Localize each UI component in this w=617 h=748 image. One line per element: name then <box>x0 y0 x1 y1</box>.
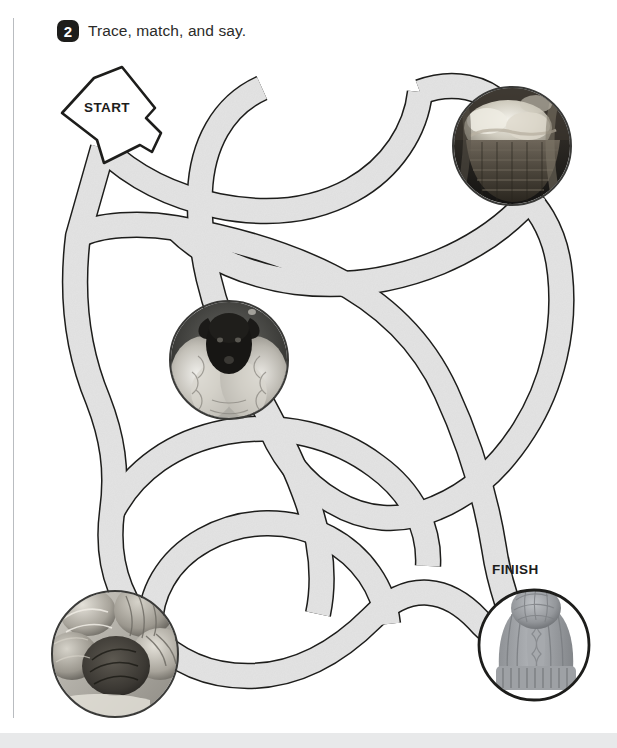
station-wool-basket <box>453 87 571 205</box>
page-footer-band <box>0 733 617 748</box>
station-bobble-hat <box>479 587 589 700</box>
finish-label: FINISH <box>492 562 539 577</box>
start-label: START <box>84 100 130 115</box>
start-arrow <box>62 67 161 163</box>
